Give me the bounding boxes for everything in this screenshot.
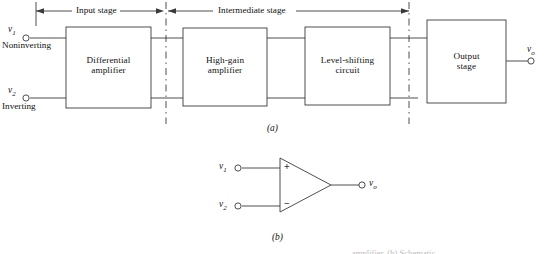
block-label-line1: High-gain <box>183 55 267 65</box>
vo-subscript: o <box>373 183 377 191</box>
opamp-noninverting-plus-sign: + <box>284 161 290 172</box>
opamp-input-lead-v1 <box>235 165 280 171</box>
opamp-inverting-minus-sign: − <box>284 198 290 209</box>
terminal-label-vo-a: vo <box>527 44 535 58</box>
opamp-output-lead-vo <box>331 182 365 188</box>
opamp-block-diagram-figure: Input stage Intermediate stage v1 Noninv… <box>0 0 550 254</box>
output-wire-vo <box>506 58 534 64</box>
cropped-figure-caption-text: amplifier. (b) Schematic <box>352 249 542 254</box>
opamp-terminal-label-v2: v2 <box>219 199 227 213</box>
block-label-line2: amplifier <box>66 65 151 75</box>
block-label-high-gain-amplifier: High-gain amplifier <box>183 55 267 76</box>
block-label-line2: amplifier <box>183 65 267 75</box>
wire-levelshift-to-output <box>390 38 427 98</box>
terminal-label-v2: v2 <box>8 85 16 99</box>
figure-caption-b: (b) <box>272 232 283 243</box>
input-stage-label: Input stage <box>73 5 120 15</box>
terminal-role-noninverting: Noninverting <box>2 40 51 50</box>
block-label-line1: Output <box>427 51 506 61</box>
terminal-role-inverting: Inverting <box>2 101 36 111</box>
figure-caption-a: (a) <box>267 123 278 134</box>
terminal-label-v1: v1 <box>8 24 16 38</box>
block-label-level-shifting-circuit: Level-shifting circuit <box>304 55 391 76</box>
v2-subscript: 2 <box>223 204 227 212</box>
wire-highgain-to-levelshift <box>267 38 305 98</box>
v2-subscript: 2 <box>12 90 16 98</box>
opamp-input-lead-v2 <box>235 203 280 209</box>
block-label-line1: Level-shifting <box>304 55 391 65</box>
wire-diffamp-to-highgain <box>151 38 183 98</box>
opamp-terminal-label-v1: v1 <box>219 161 227 175</box>
block-label-line2: stage <box>427 61 506 71</box>
block-label-output-stage: Output stage <box>427 51 506 72</box>
block-label-line1: Differential <box>66 55 151 65</box>
vo-subscript: o <box>531 49 535 57</box>
v1-subscript: 1 <box>12 29 16 37</box>
block-label-line2: circuit <box>304 65 391 75</box>
block-label-differential-amplifier: Differential amplifier <box>66 55 151 76</box>
intermediate-stage-label: Intermediate stage <box>215 5 289 15</box>
opamp-terminal-label-vo: vo <box>369 178 377 192</box>
v1-subscript: 1 <box>223 166 227 174</box>
